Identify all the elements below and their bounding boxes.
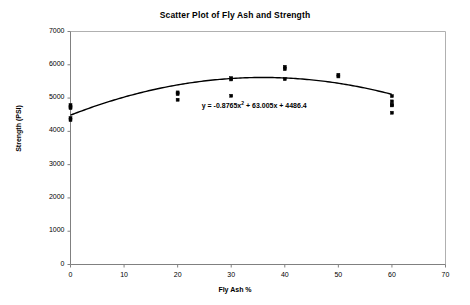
- x-tick-label: 40: [270, 271, 300, 278]
- data-point: [230, 94, 233, 97]
- tick-marks: [68, 32, 446, 268]
- data-point: [176, 98, 179, 101]
- y-tick-label: 6000: [20, 60, 65, 67]
- trendline-equation-label: y = -0.8765x2 + 63.005x + 4486.4: [202, 100, 307, 109]
- data-point: [390, 100, 393, 103]
- scatter-chart: Scatter Plot of Fly Ash and Strength Fly…: [0, 0, 470, 305]
- data-point: [69, 107, 72, 110]
- x-axis-title: Fly Ash %: [0, 286, 470, 293]
- x-tick-label: 0: [56, 271, 86, 278]
- data-point: [337, 75, 340, 78]
- y-tick-label: 7000: [20, 27, 65, 34]
- data-point: [230, 78, 233, 81]
- x-tick-label: 70: [431, 271, 461, 278]
- y-tick-label: 5000: [20, 93, 65, 100]
- data-point: [390, 111, 393, 114]
- data-point: [283, 78, 286, 81]
- y-tick-label: 4000: [20, 126, 65, 133]
- x-tick-label: 20: [163, 271, 193, 278]
- data-point: [69, 119, 72, 122]
- y-tick-label: 0: [20, 260, 65, 267]
- x-tick-label: 60: [377, 271, 407, 278]
- y-tick-label: 1000: [20, 226, 65, 233]
- data-point: [390, 104, 393, 107]
- chart-title: Scatter Plot of Fly Ash and Strength: [0, 10, 470, 20]
- data-point: [390, 95, 393, 98]
- data-point: [283, 68, 286, 71]
- x-tick-label: 30: [216, 271, 246, 278]
- data-point: [176, 93, 179, 96]
- x-tick-label: 10: [109, 271, 139, 278]
- plot-frame: [71, 32, 446, 265]
- chart-canvas: [0, 0, 470, 305]
- x-tick-label: 50: [323, 271, 353, 278]
- y-tick-label: 2000: [20, 193, 65, 200]
- y-tick-label: 3000: [20, 160, 65, 167]
- data-points: [69, 65, 393, 121]
